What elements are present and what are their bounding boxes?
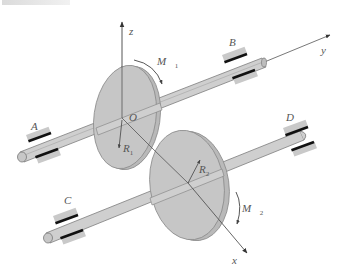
y-axis — [262, 35, 330, 63]
x-axis-label: x — [232, 255, 237, 266]
radius-r1-label: R1 — [123, 143, 133, 157]
origin-label: O — [129, 112, 137, 123]
bearing-c-label: C — [64, 195, 71, 206]
z-axis-label: z — [129, 26, 133, 37]
bearing-a-label: A — [31, 121, 38, 132]
moment-m1-label: M⃗1 — [157, 56, 178, 70]
radius-r2-label: R2 — [199, 164, 209, 178]
moment-m2-label: M⃗2 — [242, 203, 263, 217]
bearing-b-label: B — [229, 37, 236, 48]
shaft-disk-diagram — [0, 0, 347, 277]
y-axis-label: y — [321, 45, 326, 56]
disk-2 — [143, 125, 237, 245]
bearing-d-label: D — [286, 112, 294, 123]
moment-m2-arrow — [236, 192, 240, 224]
